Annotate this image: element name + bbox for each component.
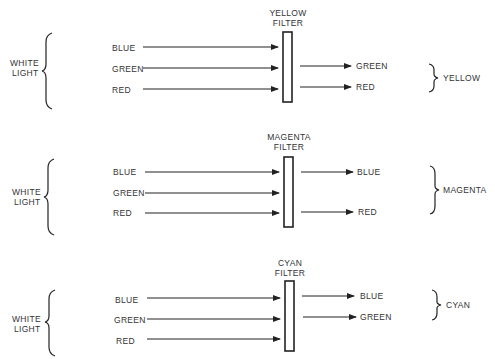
cyan-filter [285, 281, 294, 351]
right-brace-icon [429, 64, 438, 92]
filter-diagram: WHITE LIGHT BLUE GREEN RED YELLOW FILTER… [0, 0, 495, 359]
result-label: CYAN [446, 300, 470, 310]
output-label-red: RED [358, 207, 377, 217]
filter-label-line2: FILTER [275, 268, 305, 278]
filter-label-line1: CYAN [278, 258, 302, 268]
left-brace-icon [44, 159, 54, 235]
output-label-blue: BLUE [360, 291, 383, 301]
panel-yellow: WHITE LIGHT BLUE GREEN RED YELLOW FILTER… [10, 8, 480, 109]
filter-label-line1: YELLOW [269, 8, 306, 18]
output-label-blue: BLUE [357, 167, 380, 177]
input-label-blue: BLUE [113, 167, 136, 177]
output-label-green: GREEN [356, 61, 388, 71]
white-light-label-line1: WHITE [12, 314, 41, 324]
result-label: MAGENTA [443, 185, 487, 195]
left-brace-icon [42, 33, 52, 109]
input-label-red: RED [113, 208, 132, 218]
input-label-green: GREEN [114, 315, 146, 325]
input-label-red: RED [116, 336, 135, 346]
white-light-label-line2: LIGHT [12, 68, 39, 78]
yellow-filter [283, 32, 292, 102]
input-label-red: RED [112, 85, 131, 95]
output-label-red: RED [356, 82, 375, 92]
filter-label-line1: MAGENTA [267, 132, 311, 142]
right-brace-icon [430, 166, 439, 214]
output-label-green: GREEN [360, 312, 392, 322]
result-label: YELLOW [443, 73, 480, 83]
panel-cyan: WHITE LIGHT BLUE GREEN RED CYAN FILTER B… [12, 258, 470, 356]
white-light-label-line2: LIGHT [14, 324, 41, 334]
left-brace-icon [45, 290, 55, 356]
white-light-label-line1: WHITE [10, 58, 39, 68]
input-label-green: GREEN [113, 188, 145, 198]
filter-label-line2: FILTER [273, 18, 303, 28]
right-brace-icon [432, 290, 441, 320]
panel-magenta: WHITE LIGHT BLUE GREEN RED MAGENTA FILTE… [12, 132, 487, 235]
input-label-blue: BLUE [112, 43, 135, 53]
white-light-label-line1: WHITE [12, 187, 41, 197]
filter-label-line2: FILTER [274, 142, 304, 152]
input-label-green: GREEN [112, 64, 144, 74]
white-light-label-line2: LIGHT [14, 197, 41, 207]
magenta-filter [284, 157, 293, 227]
input-label-blue: BLUE [115, 295, 138, 305]
